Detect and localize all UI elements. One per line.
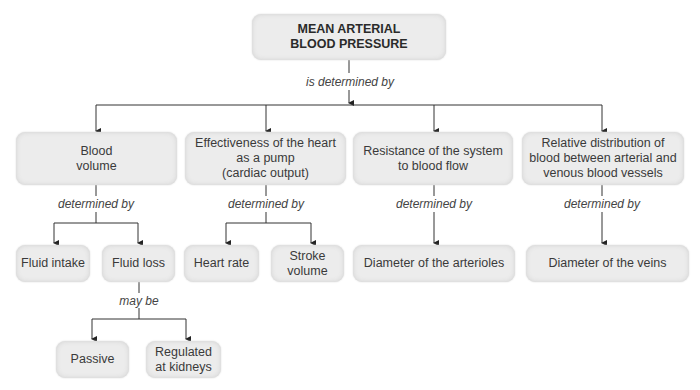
passive-loss-box: Passive: [56, 341, 129, 378]
relation-label-fluid-loss: may be: [109, 294, 169, 308]
relation-label-cardiac-output: determined by: [216, 197, 316, 211]
relation-label-root: is determined by: [280, 75, 420, 89]
veins-diameter-box: Diameter of the veins: [526, 245, 689, 282]
fluid-intake-box: Fluid intake: [16, 245, 90, 282]
heart-rate-box: Heart rate: [184, 245, 259, 282]
arterioles-diameter-box: Diameter of the arterioles: [353, 245, 515, 282]
relation-label-blood-volume: determined by: [46, 197, 146, 211]
factor-distribution: Relative distribution of blood between a…: [522, 132, 684, 185]
fluid-loss-box: Fluid loss: [102, 245, 175, 282]
factor-resistance: Resistance of the system to blood flow: [353, 132, 513, 185]
stroke-volume-box: Stroke volume: [271, 245, 344, 282]
relation-label-resistance: determined by: [384, 197, 484, 211]
relation-label-distribution: determined by: [552, 197, 652, 211]
mean-arterial-pressure-box: MEAN ARTERIAL BLOOD PRESSURE: [252, 14, 446, 60]
factor-blood-volume: Blood volume: [16, 132, 177, 185]
factor-cardiac-output: Effectiveness of the heart as a pump (ca…: [185, 132, 346, 185]
regulated-loss-box: Regulated at kidneys: [146, 341, 221, 378]
